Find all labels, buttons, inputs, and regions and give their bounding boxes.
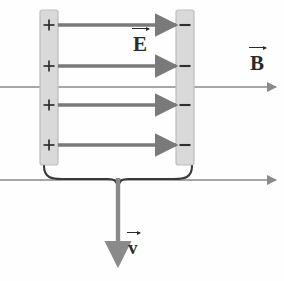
physics-diagram-velocity-selector: E B v [0, 0, 284, 281]
electric-field-arrows [58, 25, 176, 145]
magnetic-field-label-text: B [250, 51, 264, 75]
vector-arrow-accent [127, 232, 140, 233]
vector-arrow-accent [249, 47, 266, 48]
electric-field-label: E [133, 34, 147, 55]
electric-field-label-text: E [133, 32, 147, 56]
magnetic-field-label: B [250, 53, 264, 74]
velocity-label-text: v [128, 237, 138, 258]
velocity-label: v [128, 238, 138, 257]
vector-arrow-accent [132, 28, 149, 29]
negative-plate [176, 10, 194, 165]
